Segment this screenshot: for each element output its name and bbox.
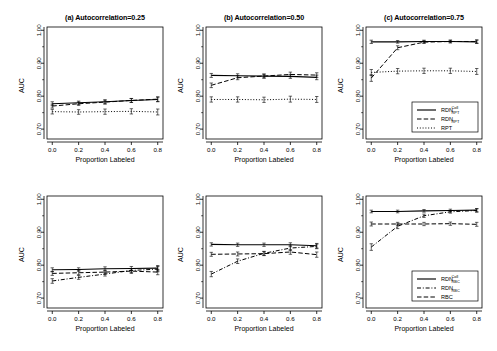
panel-bottom-c: 0.700.800.901.000.00.20.40.60.8RDNCollRB… — [0, 0, 497, 351]
legend-label: RBC — [441, 294, 453, 300]
legend-bottom-c: RDNCollRBCRDNRBCRBC — [412, 271, 478, 301]
y-tick-label: 0.80 — [354, 259, 361, 272]
y-tick-label: 0.70 — [354, 292, 361, 305]
y-tick-label: 0.90 — [354, 226, 361, 239]
plot-area-bottom-c: 0.700.800.901.000.00.20.40.60.8RDNCollRB… — [0, 0, 497, 351]
legend-label-subscript: RBC — [452, 279, 460, 284]
x-tick-label: 0.4 — [420, 315, 429, 322]
x-tick-label: 0.8 — [472, 315, 481, 322]
x-tick-label: 0.2 — [393, 315, 402, 322]
x-tick-label: 0.6 — [446, 315, 455, 322]
y-axis-label: AUC — [337, 247, 344, 262]
x-tick-label: 0.0 — [367, 315, 376, 322]
y-tick-label: 1.00 — [354, 193, 361, 206]
figure-canvas: 0.700.800.901.000.00.20.40.60.8(a) Autoc… — [0, 0, 497, 351]
legend-label-subscript: RBC — [452, 288, 460, 293]
error-bar — [370, 244, 373, 251]
x-axis-label: Proportion Labeled — [366, 325, 482, 332]
